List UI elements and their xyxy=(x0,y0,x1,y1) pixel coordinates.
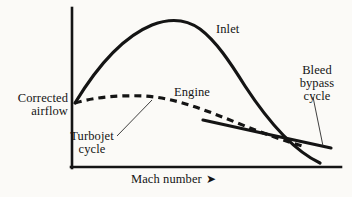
bleed-bypass-cycle-annotation: Bleed bypass cycle xyxy=(288,64,346,103)
engine-annotation: Engine xyxy=(174,86,210,99)
bleed-bypass-line xyxy=(203,120,331,148)
turbojet-leader-line xyxy=(117,100,152,136)
x-axis-label: Mach number➤ xyxy=(131,173,216,186)
x-axis-label-text: Mach number xyxy=(131,172,202,186)
bleed-leader-line xyxy=(313,97,323,146)
right-arrow-icon: ➤ xyxy=(206,173,216,186)
turbojet-cycle-annotation: Turbojet cycle xyxy=(62,130,122,156)
y-axis-label: Corrected airflow xyxy=(2,92,68,118)
inlet-annotation: Inlet xyxy=(216,23,239,36)
corrected-airflow-mach-number-figure: Corrected airflow Mach number➤ Inlet Eng… xyxy=(0,0,352,197)
